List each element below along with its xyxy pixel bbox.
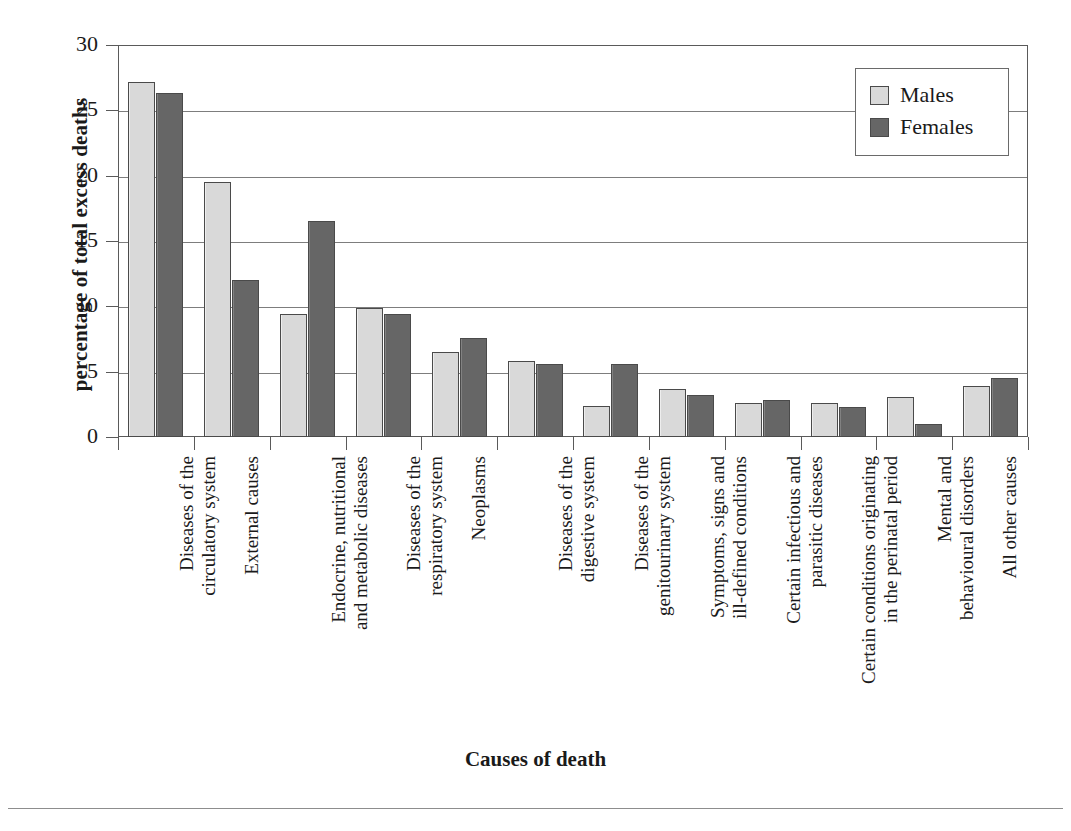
bar-group xyxy=(346,45,422,437)
bar-males xyxy=(659,389,686,437)
x-category-label: External causes xyxy=(241,456,263,706)
legend-swatch-females xyxy=(870,118,889,137)
bar-females xyxy=(611,364,638,437)
legend-label: Males xyxy=(900,84,954,106)
x-category-label: Neoplasms xyxy=(468,456,490,706)
x-tick-mark xyxy=(649,437,650,450)
x-tick-mark xyxy=(952,437,953,450)
bar-group xyxy=(421,45,497,437)
bar-females xyxy=(839,407,866,437)
bar-females xyxy=(308,221,335,437)
y-tick-mark xyxy=(106,372,118,373)
y-tick-label: 15 xyxy=(46,229,98,251)
x-category-label: Symptoms, signs and ill-defined conditio… xyxy=(707,456,751,706)
legend-item: Males xyxy=(870,79,996,111)
y-tick-label: 5 xyxy=(46,360,98,382)
x-tick-mark xyxy=(573,437,574,450)
chart-figure: percentage of total excess deaths 051015… xyxy=(0,0,1071,831)
x-tick-mark xyxy=(270,437,271,450)
bottom-rule xyxy=(8,808,1063,809)
bar-group xyxy=(118,45,194,437)
bar-females xyxy=(991,378,1018,437)
x-category-label: Certain infectious and parasitic disease… xyxy=(783,456,827,706)
bar-males xyxy=(887,397,914,438)
bar-males xyxy=(128,82,155,437)
x-tick-mark xyxy=(346,437,347,450)
bar-males xyxy=(432,352,459,437)
y-tick-label: 0 xyxy=(46,425,98,447)
x-tick-mark xyxy=(876,437,877,450)
x-tick-mark xyxy=(497,437,498,450)
y-tick-label: 20 xyxy=(46,164,98,186)
y-tick-label: 25 xyxy=(46,98,98,120)
bar-males xyxy=(356,308,383,437)
x-tick-mark xyxy=(194,437,195,450)
bar-females xyxy=(763,400,790,437)
bar-males xyxy=(735,403,762,437)
y-tick-mark xyxy=(106,176,118,177)
bar-males xyxy=(204,182,231,437)
bar-males xyxy=(811,403,838,437)
x-tick-mark xyxy=(725,437,726,450)
y-tick-mark xyxy=(106,241,118,242)
bar-females xyxy=(384,314,411,437)
x-category-label: Diseases of the respiratory system xyxy=(403,456,447,706)
bar-group xyxy=(725,45,801,437)
y-tick-mark xyxy=(106,306,118,307)
x-tick-mark xyxy=(1028,437,1029,450)
x-tick-mark xyxy=(801,437,802,450)
x-category-label: All other causes xyxy=(999,456,1021,706)
chart-legend: MalesFemales xyxy=(855,68,1009,156)
legend-swatch-males xyxy=(870,86,889,105)
x-axis-title: Causes of death xyxy=(0,747,1071,772)
x-category-label: Diseases of the circulatory system xyxy=(176,456,220,706)
y-tick-mark xyxy=(106,45,118,46)
x-category-label: Diseases of the genitourinary system xyxy=(631,456,675,706)
bar-group xyxy=(270,45,346,437)
bar-group xyxy=(194,45,270,437)
x-category-label: Mental and behavioural disorders xyxy=(934,456,978,706)
x-tick-mark xyxy=(421,437,422,450)
y-tick-label: 30 xyxy=(46,33,98,55)
bar-females xyxy=(687,395,714,437)
legend-item: Females xyxy=(870,111,996,143)
bar-males xyxy=(280,314,307,437)
x-tick-mark xyxy=(118,437,119,450)
bar-females xyxy=(536,364,563,437)
bar-males xyxy=(508,361,535,437)
x-category-label: Endocrine, nutritional and metabolic dis… xyxy=(328,456,372,706)
bar-group xyxy=(649,45,725,437)
y-tick-mark xyxy=(106,110,118,111)
bar-females xyxy=(915,424,942,437)
bar-group xyxy=(573,45,649,437)
bar-males xyxy=(583,406,610,437)
bar-females xyxy=(232,280,259,437)
legend-label: Females xyxy=(900,116,973,138)
bar-females xyxy=(460,338,487,437)
y-tick-label: 10 xyxy=(46,294,98,316)
x-category-label: Certain conditions originating in the pe… xyxy=(858,456,902,706)
bar-females xyxy=(156,93,183,437)
bar-group xyxy=(497,45,573,437)
y-tick-mark xyxy=(106,437,118,438)
bar-males xyxy=(963,386,990,437)
x-category-label: Diseases of the digestive system xyxy=(555,456,599,706)
